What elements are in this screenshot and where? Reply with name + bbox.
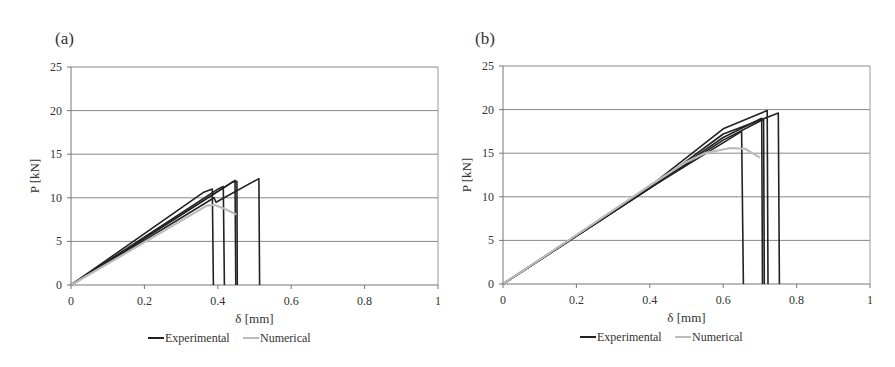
x-tick-label: 0.4 [642,293,657,307]
x-axis-label: δ [mm] [235,311,273,326]
series-numerical [71,205,236,285]
legend-label-experimental: Experimental [165,331,230,345]
x-axis-label: δ [mm] [667,310,705,325]
y-tick-label: 10 [50,191,62,205]
y-tick-label: 5 [56,234,62,248]
series-experimental [503,113,779,284]
y-tick-label: 15 [482,146,494,160]
y-tick-label: 10 [482,190,494,204]
panel-label: (a) [55,29,74,48]
y-tick-label: 0 [488,277,494,291]
x-tick-label: 0.8 [789,293,804,307]
y-tick-label: 25 [50,60,62,74]
y-tick-label: 5 [488,233,494,247]
x-tick-label: 0.2 [569,293,584,307]
y-tick-label: 20 [50,104,62,118]
y-axis-label: P [kN] [459,158,474,193]
x-tick-label: 0.4 [210,294,225,308]
legend-label-numerical: Numerical [260,331,311,345]
y-tick-label: 15 [50,147,62,161]
x-tick-label: 0.6 [284,294,299,308]
series-numerical [503,148,760,284]
legend-label-numerical: Numerical [692,330,743,344]
x-tick-label: 0 [68,294,74,308]
y-tick-label: 25 [482,59,494,73]
y-tick-label: 0 [56,278,62,292]
chart-panel-b: (b)051015202500.20.40.60.81δ [mm]P [kN]E… [450,0,895,367]
x-tick-label: 0.6 [716,293,731,307]
chart-b: (b)051015202500.20.40.60.81δ [mm]P [kN]E… [450,0,895,367]
x-tick-label: 0.2 [137,294,152,308]
panel-label: (b) [475,29,495,48]
chart-a: (a)051015202500.20.40.60.81δ [mm]P [kN]E… [0,0,450,367]
y-tick-label: 20 [482,103,494,117]
x-tick-label: 0 [500,293,506,307]
chart-panel-a: (a)051015202500.20.40.60.81δ [mm]P [kN]E… [0,0,450,367]
x-tick-label: 1 [435,294,441,308]
y-axis-label: P [kN] [27,159,42,194]
x-tick-label: 0.8 [357,294,372,308]
legend-label-experimental: Experimental [597,330,662,344]
x-tick-label: 1 [867,293,873,307]
